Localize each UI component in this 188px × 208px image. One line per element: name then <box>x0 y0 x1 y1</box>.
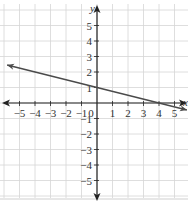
y-tick-label: −3 <box>80 144 92 156</box>
x-tick-label: −5 <box>14 107 26 119</box>
x-tick-label: 1 <box>110 107 116 119</box>
x-axis-label: x <box>182 96 188 108</box>
y-tick-label: −4 <box>80 159 92 171</box>
x-tick-label: 5 <box>172 107 178 119</box>
coordinate-plane: −5−4−3−2−101234554321−1−2−3−4−5 x y <box>0 0 188 208</box>
y-tick-label: 3 <box>87 51 93 63</box>
y-tick-label: −1 <box>80 113 92 125</box>
y-tick-label: −2 <box>80 128 92 140</box>
y-tick-label: 4 <box>87 35 93 47</box>
x-tick-label: −2 <box>60 107 72 119</box>
x-tick-label: 3 <box>141 107 147 119</box>
grid-lines <box>0 4 188 199</box>
x-tick-label: 4 <box>156 107 162 119</box>
x-tick-label: −4 <box>29 107 41 119</box>
x-tick-label: −3 <box>45 107 57 119</box>
y-tick-label: 1 <box>87 82 93 94</box>
y-tick-label: 2 <box>87 66 93 78</box>
y-axis-label: y <box>89 2 95 14</box>
y-tick-label: 5 <box>87 20 93 32</box>
x-tick-label: 2 <box>125 107 131 119</box>
y-tick-label: −5 <box>80 175 92 187</box>
